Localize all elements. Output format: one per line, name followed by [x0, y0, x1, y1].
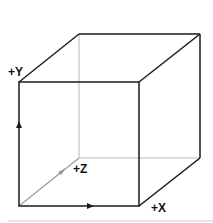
bottom-right-edge — [139, 158, 200, 206]
visible-edges — [19, 34, 200, 206]
top-left-edge — [19, 34, 79, 82]
x-axis-arrow-icon — [87, 203, 94, 209]
x-axis-label: +X — [151, 201, 166, 215]
z-axis — [19, 158, 79, 206]
y-axis-label: +Y — [8, 65, 23, 79]
cube-diagram: +Y +Z +X — [0, 0, 213, 223]
top-right-edge — [139, 34, 200, 82]
y-axis-arrow-icon — [16, 121, 22, 128]
z-axis-label: +Z — [73, 162, 87, 176]
bottom-divider — [8, 220, 213, 222]
